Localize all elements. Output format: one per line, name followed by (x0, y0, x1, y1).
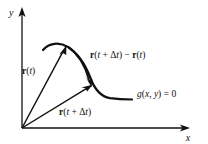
axes-group: y x (8, 7, 191, 143)
label-r-of-t-plus-dt-plus: + (69, 107, 79, 117)
diagram-canvas: y x r(t) r(t + Δt) (0, 0, 208, 144)
label-curve-eq-equals: = (161, 89, 171, 99)
x-axis-label: x (185, 132, 191, 143)
y-axis-label: y (8, 7, 14, 18)
label-r-of-t: r(t) (22, 66, 35, 77)
label-curve-equation: g(x, y) = 0 (137, 89, 176, 100)
label-curve-eq-zero: 0 (171, 89, 176, 99)
label-difference-plus: + (100, 50, 110, 60)
label-difference-vector: r(t + Δt) − r(t) (90, 50, 145, 61)
label-difference-close2: ) (142, 50, 145, 61)
difference-vector-group (68, 47, 92, 88)
label-r-of-t-close: ) (32, 66, 35, 77)
label-r-of-t-plus-dt-close: ) (88, 107, 91, 118)
difference-vector-arc (68, 47, 89, 80)
vector-diagram-figure: y x r(t) r(t + Δt) (0, 0, 208, 144)
vector-r-of-t-arrowhead (59, 45, 66, 55)
vector-r-of-t-shaft (22, 51, 63, 128)
label-r-of-t-plus-dt: r(t + Δt) (59, 107, 91, 118)
label-difference-minus: − (122, 50, 132, 60)
